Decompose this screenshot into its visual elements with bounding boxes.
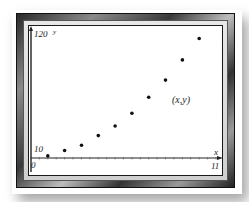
data-point [181,58,185,62]
data-point [63,149,67,153]
x-max-label: 11 [211,161,219,171]
scatter-plot: 120 y 10 0 x 11 (x,y) [0,0,249,202]
y-axis-arrow-icon [29,26,33,31]
data-point [130,111,134,115]
data-point [97,134,101,138]
data-point [164,78,168,82]
data-point [46,154,50,158]
x-axis-name: x [213,147,218,157]
data-point [147,95,151,99]
y-max-label: 120 [34,29,48,39]
data-point [80,143,84,147]
axes [29,26,223,172]
y-min-label: 10 [34,144,44,154]
x-min-label: 0 [31,160,36,170]
data-point [113,124,117,128]
y-axis-name: y [52,28,57,36]
data-point [197,37,201,41]
point-annotation: (x,y) [172,94,191,106]
